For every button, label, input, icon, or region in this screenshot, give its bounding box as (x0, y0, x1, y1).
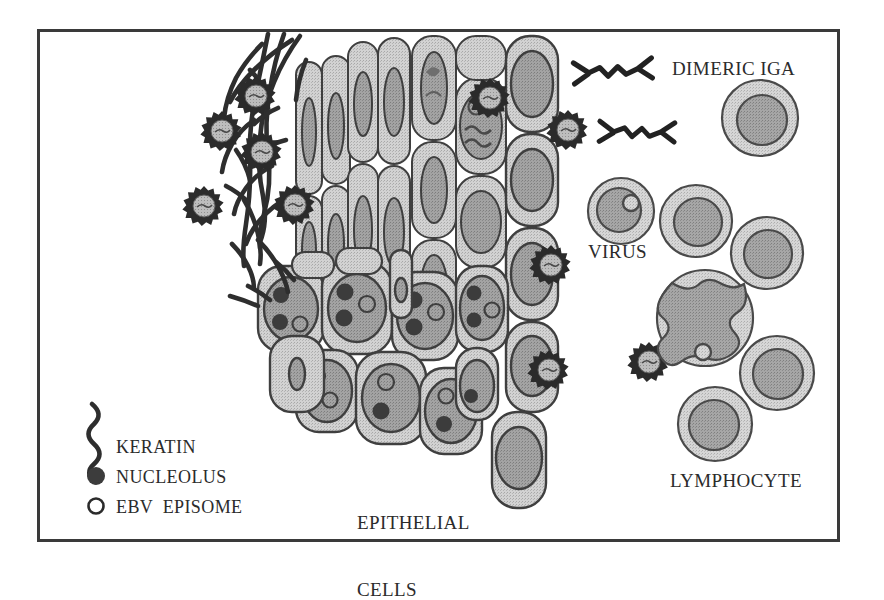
epithelial-cell (378, 38, 410, 164)
epithelial-cell (456, 348, 498, 420)
ebv-episome (428, 304, 444, 320)
nucleolus (467, 286, 482, 301)
lymphocyte (660, 185, 732, 257)
nucleolus-icon (87, 467, 105, 485)
epithelial-cell (492, 412, 546, 508)
label-dimeric-iga: DIMERIC IGA (672, 58, 795, 80)
lymphocyte-infected (588, 178, 654, 244)
epithelial-cell (412, 142, 456, 238)
ebv-episome (378, 374, 394, 390)
label-epithelial-line1: EPITHELIAL (357, 512, 470, 534)
ebv-episome (485, 303, 500, 318)
ebv-episome (439, 389, 454, 404)
basal-epithelial-cell (270, 336, 324, 412)
ebv-episome (623, 195, 639, 211)
lymphocyte (678, 387, 752, 461)
label-epithelial-cells: EPITHELIAL CELLS (357, 467, 470, 600)
label-lymphocyte: LYMPHOCYTE (670, 470, 802, 492)
epithelial-cell (292, 252, 334, 278)
label-virus: VIRUS (588, 241, 647, 263)
epithelial-cell (506, 36, 558, 132)
legend-label-nucleolus: NUCLEOLUS (116, 467, 227, 488)
epithelial-cell (336, 248, 382, 274)
lymphocyte (722, 80, 798, 156)
epithelial-cell (322, 56, 350, 184)
nucleolus (336, 310, 353, 327)
ebv-episome (359, 296, 375, 312)
nucleolus (406, 319, 423, 336)
label-epithelial-line2: CELLS (357, 579, 470, 600)
basal-epithelial-cell (322, 262, 392, 354)
episome-icon (89, 499, 104, 514)
epithelial-cell (456, 176, 506, 268)
lymphocyte (740, 336, 814, 410)
epithelial-cell (390, 250, 412, 318)
nucleolus (467, 313, 482, 328)
basal-epithelial-cell (456, 266, 508, 352)
basal-epithelial-cell (356, 352, 426, 444)
legend-label-keratin: KERATIN (116, 437, 196, 458)
nucleolus (272, 314, 288, 330)
lymphoblast-lobulated (657, 270, 753, 366)
legend-label-episome: EBV EPISOME (116, 497, 243, 518)
nucleolus (436, 416, 452, 432)
lymphocyte (731, 217, 803, 289)
epithelial-cell (348, 42, 378, 162)
epithelial-cell (506, 134, 558, 226)
nucleolus (337, 284, 354, 301)
epithelial-cell (456, 36, 506, 80)
nucleolus (373, 403, 390, 420)
ebv-episome (695, 344, 711, 360)
epithelial-cell (412, 36, 456, 140)
ebv-episome (293, 317, 308, 332)
nucleolus (464, 389, 478, 403)
